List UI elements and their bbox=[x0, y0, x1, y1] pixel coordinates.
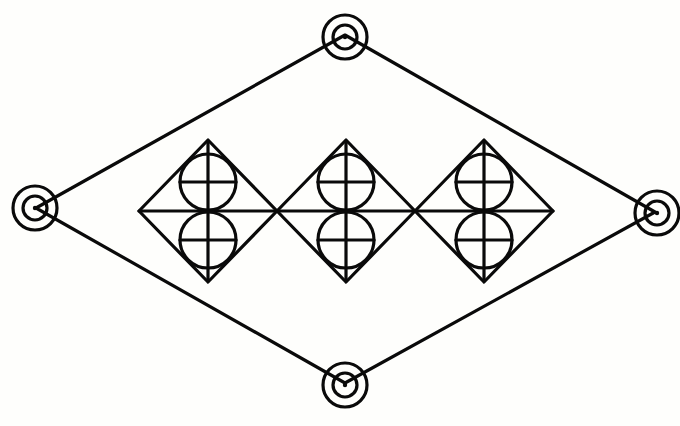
vertex-marker-top bbox=[323, 15, 367, 59]
center-dot-icon bbox=[655, 211, 659, 215]
center-dot-icon bbox=[343, 383, 347, 387]
caption-bottom bbox=[60, 414, 620, 426]
vertex-marker-right bbox=[635, 191, 679, 235]
geometric-diagram bbox=[0, 0, 680, 426]
center-dot-icon bbox=[343, 35, 347, 39]
vertex-marker-bottom bbox=[323, 363, 367, 407]
diagram-canvas bbox=[0, 0, 680, 426]
inner-diamonds bbox=[139, 140, 553, 282]
caption-top bbox=[220, 0, 470, 6]
center-dot-icon bbox=[33, 206, 37, 210]
vertex-marker-left bbox=[13, 186, 57, 230]
